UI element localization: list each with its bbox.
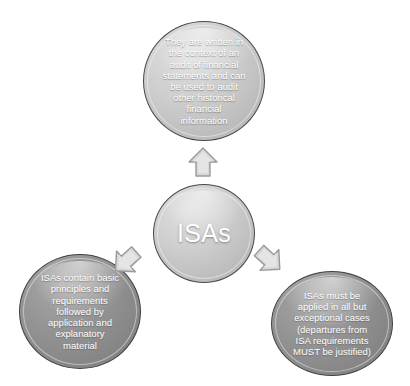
node-top: They are written in the context of an au…	[143, 21, 265, 141]
node-bottom-right: ISAs must be applied in all but exceptio…	[271, 271, 393, 376]
arrow-up-icon	[186, 146, 220, 178]
node-center-label: ISAs	[171, 219, 237, 249]
node-center-isas: ISAs	[153, 184, 255, 283]
node-bottom-right-label: ISAs must be applied in all but exceptio…	[287, 290, 377, 357]
node-bottom-left-label: ISAs contain basic principles and requir…	[35, 272, 125, 350]
isas-diagram: They are written in the context of an au…	[0, 0, 410, 386]
node-top-label: They are written in the context of an au…	[157, 36, 252, 126]
